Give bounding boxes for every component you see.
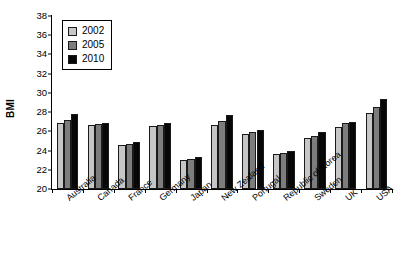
x-tick-mark [52,189,53,193]
legend-item-2002: 2002 [68,24,104,38]
bar-group [145,16,176,189]
legend-swatch-icon [68,27,77,36]
bmi-bar-chart: BMI 20222426283032343638 AustraliaCanada… [0,0,405,265]
legend: 200220052010 [62,20,112,70]
bar-2002-new-zealand [211,125,218,189]
x-tick-mark [361,189,362,193]
bar-group [237,16,268,189]
bar-2005-australia [64,120,71,189]
bar-2010-germany [164,123,171,189]
bar-2010-usa [380,99,387,189]
y-axis-title: BMI [2,78,18,138]
bar-2010-canada [102,123,109,189]
legend-item-2010: 2010 [68,52,104,66]
legend-label: 2010 [82,54,104,64]
bar-2010-france [133,142,140,189]
bar-2005-usa [373,107,380,189]
bar-2010-portugal [257,130,264,189]
bar-2005-france [126,144,133,189]
bar-group [176,16,207,189]
bar-2010-uk [349,122,356,189]
bar-2010-australia [71,114,78,189]
bar-2002-australia [57,123,64,189]
legend-label: 2005 [82,40,104,50]
legend-item-2005: 2005 [68,38,104,52]
category-label-uk: UK [344,188,359,203]
bar-group [268,16,299,189]
bar-2002-usa [366,113,373,189]
legend-swatch-icon [68,41,77,50]
bar-2010-new-zealand [226,115,233,189]
bar-group [114,16,145,189]
bar-group [361,16,392,189]
bar-2005-uk [342,123,349,189]
bar-2005-germany [157,125,164,189]
bar-2005-republic-of-korea [280,153,287,189]
bar-group [207,16,238,189]
legend-label: 2002 [82,26,104,36]
y-axis-title-text: BMI [5,99,16,118]
legend-swatch-icon [68,55,77,64]
bar-2005-new-zealand [218,121,225,189]
